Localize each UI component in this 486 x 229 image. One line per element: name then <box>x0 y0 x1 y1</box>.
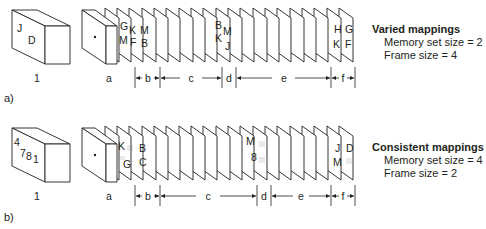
panel-b <box>12 126 353 182</box>
interval-label-b: b <box>145 72 151 84</box>
svg-text:F: F <box>130 36 136 48</box>
cube-label: 1 <box>34 72 40 84</box>
legend-consistent: Consistent mappings Memory set size = 4 … <box>372 141 484 180</box>
cube-label: 1 <box>34 190 40 202</box>
svg-text:K: K <box>129 24 136 36</box>
panel-b-tag: b) <box>4 211 14 223</box>
svg-text:B: B <box>139 142 146 154</box>
svg-text:G: G <box>120 20 128 32</box>
svg-text:M: M <box>223 25 232 37</box>
interval-label-e: e <box>281 72 287 84</box>
interval-label-d: d <box>226 72 232 84</box>
svg-text:B: B <box>215 19 222 31</box>
svg-text:C: C <box>139 156 147 168</box>
interval-label-f: f <box>342 72 345 84</box>
svg-text:1: 1 <box>33 153 39 165</box>
svg-text:M: M <box>140 24 149 36</box>
frame-size: Frame size = 4 <box>372 49 483 62</box>
cube-letter: D <box>28 34 36 46</box>
svg-text:K: K <box>118 140 125 152</box>
svg-text:H: H <box>334 23 342 35</box>
fixation-dot <box>94 154 96 156</box>
interval-label-e: e <box>298 190 304 202</box>
svg-text:M: M <box>246 135 255 147</box>
svg-text:F: F <box>345 38 351 50</box>
interval-label-c: c <box>188 72 193 84</box>
legend-title: Consistent mappings <box>372 141 484 154</box>
svg-text:J: J <box>335 142 340 154</box>
svg-text:8: 8 <box>26 150 32 162</box>
svg-text:G: G <box>123 158 131 170</box>
svg-text:8: 8 <box>251 151 257 163</box>
svg-text:K: K <box>333 38 340 50</box>
interval-markers <box>135 67 355 88</box>
panel-a-tag: a) <box>4 92 14 104</box>
interval-markers <box>135 185 355 206</box>
interval-label-f: f <box>342 190 345 202</box>
legend-title: Varied mappings <box>372 23 483 36</box>
frame-size: Frame size = 2 <box>372 167 484 180</box>
svg-text:M: M <box>119 34 128 46</box>
mask-label: a <box>106 190 112 202</box>
cube-letter: J <box>17 22 22 34</box>
memory-set-size: Memory set size = 2 <box>372 36 483 49</box>
svg-text:D: D <box>346 142 354 154</box>
svg-text:J: J <box>225 40 230 52</box>
memory-set-cube <box>12 10 70 64</box>
interval-label-c: c <box>205 190 210 202</box>
panel-a <box>12 8 353 64</box>
fixation-dot <box>94 36 96 38</box>
mask-label: a <box>106 72 112 84</box>
legend-varied: Varied mappings Memory set size = 2 Fram… <box>372 23 483 62</box>
interval-label-d: d <box>261 190 267 202</box>
interval-label-b: b <box>145 190 151 202</box>
svg-text:G: G <box>345 23 353 35</box>
memory-set-size: Memory set size = 4 <box>372 154 484 167</box>
svg-text:M: M <box>333 156 342 168</box>
svg-text:B: B <box>141 37 148 49</box>
svg-text:K: K <box>215 32 222 44</box>
